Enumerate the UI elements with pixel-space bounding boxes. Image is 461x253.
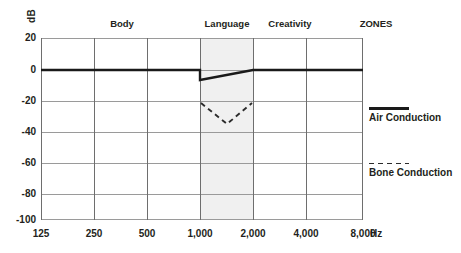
audiogram-figure: dB Body Language Creativity ZONES 20 0 -… xyxy=(0,0,461,253)
plot-canvas xyxy=(0,0,461,253)
shaded-region-language xyxy=(200,38,253,220)
